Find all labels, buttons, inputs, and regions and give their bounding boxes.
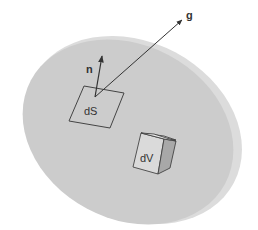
divergence-diagram: dS n g dV — [0, 0, 258, 230]
surface-element-label: dS — [84, 105, 97, 117]
normal-vector-label: n — [86, 63, 93, 75]
diagram-canvas: dS n g dV — [0, 0, 258, 230]
volume-element-label: dV — [140, 152, 154, 164]
g-vector-label: g — [186, 9, 193, 21]
